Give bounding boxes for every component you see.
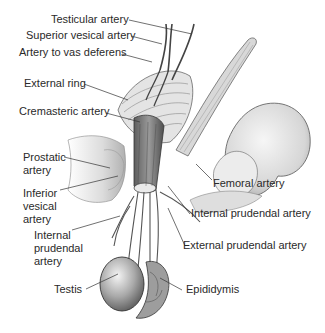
label-superior-vesical-artery: Superior vesical artery	[26, 29, 135, 42]
label-artery-to-vas-deferens: Artery to vas deferens	[19, 46, 127, 59]
label-epididymis: Epididymis	[186, 283, 239, 296]
label-cremasteric-artery: Cremasteric artery	[19, 105, 109, 118]
label-prostatic-artery: Prostatic artery	[23, 151, 66, 177]
label-testicular-artery: Testicular artery	[51, 13, 129, 26]
label-inferior-vesical-artery: Inferior vesical artery	[23, 187, 57, 226]
label-internal-prudendal-artery-left: Internal prudendal artery	[34, 229, 83, 268]
label-internal-prudendal-artery-right: Internal prudendal artery	[191, 207, 311, 220]
label-external-prudendal-artery: External prudendal artery	[183, 239, 307, 252]
label-external-ring: External ring	[24, 77, 86, 90]
bladder-prostate	[68, 136, 126, 203]
label-femoral-artery: Femoral artery	[213, 177, 285, 190]
label-testis: Testis	[54, 283, 82, 296]
testis-shape	[100, 257, 144, 311]
spermatic-cord	[134, 115, 164, 193]
